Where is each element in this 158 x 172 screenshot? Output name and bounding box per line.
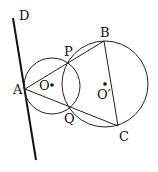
label-d: D <box>19 8 29 23</box>
label-b: B <box>100 25 110 40</box>
label-o: O <box>39 78 50 93</box>
label-c: C <box>119 129 129 144</box>
label-q: Q <box>64 111 75 126</box>
center-o-prime-dot <box>103 82 107 86</box>
geometry-diagram: D A P Q B C O O′ <box>0 0 158 172</box>
center-o-dot <box>50 83 54 87</box>
label-o-prime: O′ <box>97 87 111 102</box>
label-p: P <box>64 44 73 59</box>
label-a: A <box>12 82 23 97</box>
